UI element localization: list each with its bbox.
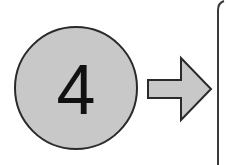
right-arrow-icon [148,58,211,120]
step-number: 4 [57,51,96,129]
panel-left-border [218,1,224,165]
step-diagram: 4 [0,0,226,165]
